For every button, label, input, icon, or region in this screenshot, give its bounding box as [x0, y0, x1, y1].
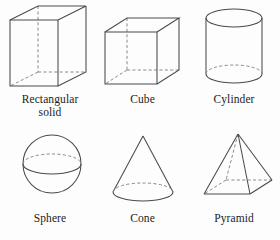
- caption-sphere: Sphere: [0, 212, 100, 225]
- top-face: [105, 18, 179, 32]
- bottom-front-arc: [206, 74, 262, 83]
- caption-pyramid: Pyramid: [188, 212, 280, 225]
- base-hidden-back-arc: [113, 183, 173, 192]
- front-face: [105, 32, 157, 84]
- figure-cylinder: Cylinder: [188, 0, 280, 120]
- right-slant-edge: [143, 136, 173, 192]
- cube-drawing: [95, 0, 190, 92]
- hidden-edge-to-front-bottom-left: [105, 70, 127, 84]
- sphere-drawing: [0, 124, 100, 212]
- rectangular-solid-drawing: [0, 0, 100, 92]
- hidden-edge-to-front-bottom-left: [10, 72, 38, 86]
- right-face: [157, 18, 179, 84]
- caption-cone: Cone: [95, 212, 190, 225]
- figure-cube: Cube: [95, 0, 190, 120]
- figure-pyramid: Pyramid: [188, 124, 280, 240]
- hidden-base-edge-left: [204, 180, 226, 194]
- caption-cube: Cube: [95, 93, 190, 106]
- base-front-arc: [113, 192, 173, 201]
- bottom-hidden-back-arc: [206, 65, 262, 74]
- figure-cone: Cone: [95, 124, 190, 240]
- caption-cylinder: Cylinder: [188, 93, 280, 106]
- base-edge-right: [250, 180, 272, 194]
- equator-hidden-back-arc: [23, 154, 81, 164]
- hidden-edge-apex-to-back-vertex: [226, 134, 238, 180]
- caption-rectangular-solid: Rectangular solid: [0, 93, 100, 118]
- front-face: [10, 20, 58, 86]
- equator-front-arc: [23, 164, 81, 174]
- top-ellipse: [206, 9, 262, 27]
- geometric-solids-figure: Rectangular solid Cube Cylinder: [0, 0, 280, 240]
- figure-sphere: Sphere: [0, 124, 100, 240]
- top-face: [10, 6, 86, 20]
- figure-rectangular-solid: Rectangular solid: [0, 0, 100, 120]
- sphere-outline: [23, 135, 81, 193]
- cone-drawing: [95, 124, 190, 212]
- front-left-slant-edge: [204, 134, 238, 194]
- cylinder-drawing: [188, 0, 280, 92]
- pyramid-drawing: [188, 124, 280, 212]
